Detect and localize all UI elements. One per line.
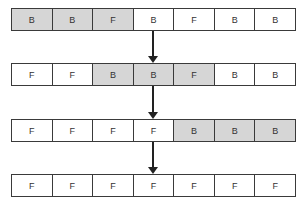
cell-2-4: B xyxy=(134,64,175,85)
cell-4-3: F xyxy=(93,175,134,196)
cell-2-2: F xyxy=(53,64,94,85)
cell-4-5: F xyxy=(174,175,215,196)
cell-3-7: B xyxy=(255,120,295,141)
arrow-down-icon xyxy=(152,31,154,63)
state-row-2: F F B B F B B xyxy=(11,63,296,86)
state-row-3: F F F F B B B xyxy=(11,119,296,142)
cell-4-6: F xyxy=(215,175,256,196)
cell-3-6: B xyxy=(215,120,256,141)
cell-2-7: B xyxy=(255,64,295,85)
cell-1-7: B xyxy=(255,9,295,30)
arrow-down-icon xyxy=(152,86,154,119)
cell-4-2: F xyxy=(53,175,94,196)
cell-1-5: F xyxy=(174,9,215,30)
cell-4-4: F xyxy=(134,175,175,196)
arrow-down-icon xyxy=(152,142,154,174)
cell-1-1: B xyxy=(12,9,53,30)
cell-3-2: F xyxy=(53,120,94,141)
cell-2-5: F xyxy=(174,64,215,85)
cell-1-4: B xyxy=(134,9,175,30)
cell-2-1: F xyxy=(12,64,53,85)
cell-3-3: F xyxy=(93,120,134,141)
state-row-4: F F F F F F F xyxy=(11,174,296,197)
cell-1-6: B xyxy=(215,9,256,30)
cell-3-5: B xyxy=(174,120,215,141)
cell-3-4: F xyxy=(134,120,175,141)
state-row-1: B B F B F B B xyxy=(11,8,296,31)
cell-3-1: F xyxy=(12,120,53,141)
cell-2-6: B xyxy=(215,64,256,85)
cell-4-7: F xyxy=(255,175,295,196)
cell-1-2: B xyxy=(53,9,94,30)
cell-4-1: F xyxy=(12,175,53,196)
cell-1-3: F xyxy=(93,9,134,30)
cell-2-3: B xyxy=(93,64,134,85)
